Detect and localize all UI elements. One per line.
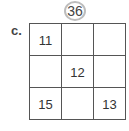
target-sum-value: 36 <box>67 3 83 19</box>
grid-cell[interactable] <box>62 24 94 56</box>
grid-cell[interactable]: 13 <box>94 88 126 120</box>
grid-cell[interactable] <box>94 24 126 56</box>
magic-square-grid: 11 12 15 13 <box>29 23 126 120</box>
grid-cell[interactable] <box>30 56 62 88</box>
target-sum-circle: 36 <box>64 1 86 21</box>
grid-cell[interactable] <box>94 56 126 88</box>
grid-cell[interactable] <box>62 88 94 120</box>
problem-label: c. <box>11 23 22 38</box>
grid-cell[interactable]: 15 <box>30 88 62 120</box>
grid-cell[interactable]: 11 <box>30 24 62 56</box>
grid-cell[interactable]: 12 <box>62 56 94 88</box>
